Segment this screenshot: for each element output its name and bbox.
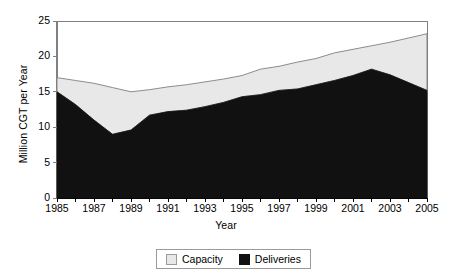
legend-label-deliveries: Deliveries: [255, 253, 301, 265]
y-tick-label: 25: [24, 15, 50, 25]
x-tick-label: 1999: [296, 203, 336, 213]
capacity-swatch-icon: [166, 254, 177, 265]
y-tick-label: 20: [24, 50, 50, 60]
x-tick-label: 1987: [74, 203, 114, 213]
y-tick-label: 15: [24, 86, 50, 96]
x-tick-label: 1985: [37, 203, 77, 213]
legend-item-capacity: Capacity: [166, 253, 223, 265]
x-tick-label: 2001: [333, 203, 373, 213]
x-tick-label: 1995: [222, 203, 262, 213]
legend-label-capacity: Capacity: [182, 253, 223, 265]
x-tick-label: 1991: [148, 203, 188, 213]
chart-figure: Million CGT per Year Year 0510152025 198…: [0, 0, 452, 280]
x-tick-label: 2003: [370, 203, 410, 213]
x-tick-label: 2005: [407, 203, 447, 213]
deliveries-swatch-icon: [239, 254, 250, 265]
x-tick-label: 1993: [185, 203, 225, 213]
x-tick-label: 1989: [111, 203, 151, 213]
plot-area: [0, 0, 452, 280]
legend-item-deliveries: Deliveries: [239, 253, 301, 265]
y-tick-label: 10: [24, 121, 50, 131]
chart-legend: Capacity Deliveries: [156, 249, 311, 269]
y-tick-label: 0: [24, 192, 50, 202]
y-tick-label: 5: [24, 157, 50, 167]
x-tick-label: 1997: [259, 203, 299, 213]
